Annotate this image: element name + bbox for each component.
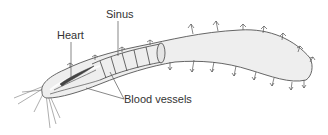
- blood-vessel-leader-1: [86, 88, 124, 99]
- worm-illustration: [0, 0, 328, 135]
- heart-label: Heart: [57, 30, 84, 41]
- blood-vessels-label: Blood vessels: [124, 94, 192, 105]
- sinus-label: Sinus: [106, 9, 134, 20]
- worm-diagram: Heart Sinus Blood vessels: [0, 0, 328, 135]
